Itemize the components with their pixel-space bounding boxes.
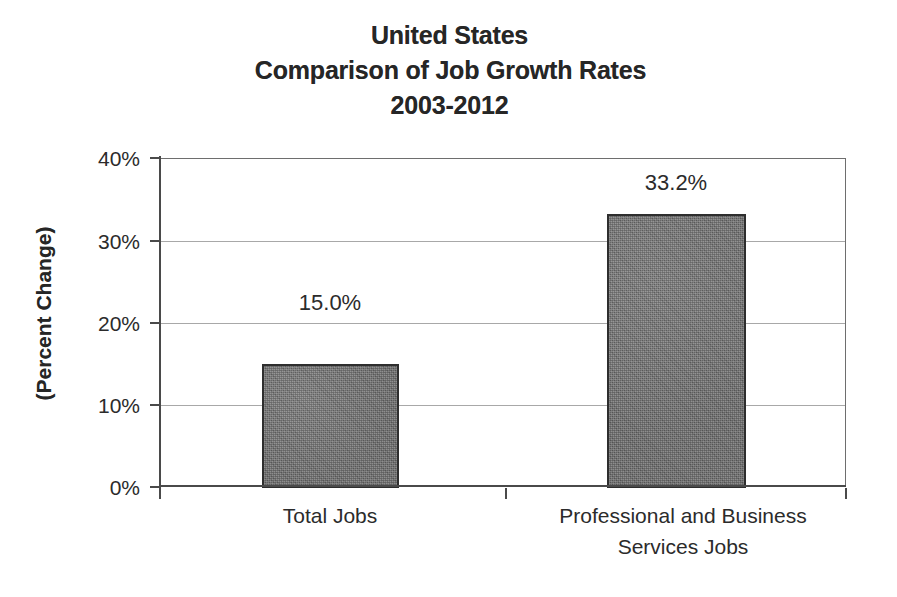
x-axis-category-tick-left (159, 488, 161, 499)
x-axis-label-professional-line-1: Professional and Business (559, 504, 806, 527)
x-axis-label-total-jobs-line-1: Total Jobs (283, 504, 378, 527)
plot-area (160, 158, 846, 487)
x-axis-label-professional-line-2: Services Jobs (518, 531, 848, 562)
chart-title-line-3: 2003-2012 (0, 88, 897, 123)
x-axis-category-tick-right (845, 488, 847, 499)
y-tick-30 (150, 240, 161, 242)
chart-title-line-2: Comparison of Job Growth Rates (0, 53, 897, 88)
chart-title: United States Comparison of Job Growth R… (0, 18, 897, 123)
y-tick-20 (150, 322, 161, 324)
y-axis-title: (Percent Change) (32, 189, 55, 439)
x-axis-category-tick-middle (505, 488, 507, 499)
y-axis-label-10: 10% (76, 395, 140, 416)
y-axis-label-30: 30% (76, 231, 140, 252)
y-axis-label-20: 20% (76, 313, 140, 334)
x-axis-label-total-jobs: Total Jobs (250, 500, 410, 531)
bar-chart: United States Comparison of Job Growth R… (0, 0, 897, 597)
y-axis-label-40: 40% (76, 148, 140, 169)
y-axis-label-0: 0% (76, 477, 140, 498)
y-axis-labels: 40% 30% 20% 10% 0% (76, 0, 140, 597)
y-tick-40 (150, 157, 161, 159)
bar-total-jobs[interactable] (262, 364, 399, 488)
bar-professional-and-business-services-jobs[interactable] (607, 214, 746, 488)
chart-title-line-1: United States (0, 18, 897, 53)
y-tick-10 (150, 404, 161, 406)
x-axis-label-professional-and-business-services-jobs: Professional and Business Services Jobs (518, 500, 848, 562)
